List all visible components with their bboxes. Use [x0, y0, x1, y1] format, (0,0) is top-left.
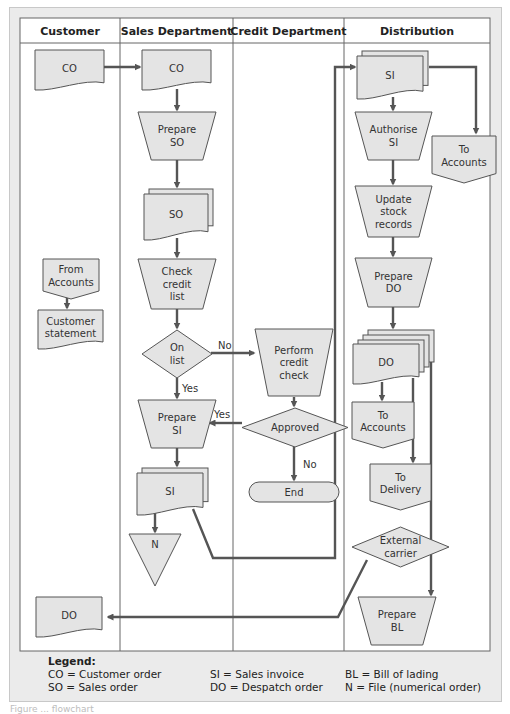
node-label: Prepare — [158, 412, 196, 423]
node-label: credit — [280, 357, 309, 368]
edge-label-yes: Yes — [181, 383, 198, 394]
node-label: records — [375, 219, 412, 230]
node-label: Authorise — [370, 124, 418, 135]
legend-entry: SI = Sales invoice — [210, 668, 345, 681]
node-label: Update — [375, 194, 411, 205]
perform-credit-node: Performcreditcheck — [255, 329, 333, 396]
node-label: External — [380, 535, 422, 546]
node-label: On — [170, 342, 184, 353]
legend-entry: N = File (numerical order) — [345, 681, 481, 694]
node-label: Customer — [46, 316, 95, 327]
prep-so-node: PrepareSO — [138, 112, 216, 160]
check-credit-node: Checkcreditlist — [138, 259, 216, 309]
node-label: list — [170, 355, 185, 366]
node-label: DO — [61, 610, 77, 621]
node-label: check — [279, 370, 308, 381]
node-label: From — [59, 264, 84, 275]
node-label: CO — [62, 63, 77, 74]
node-label: Perform — [274, 345, 313, 356]
lane-header-distribution: Distribution — [380, 25, 454, 38]
edge-label-no: No — [303, 459, 317, 470]
node-label: Accounts — [360, 422, 406, 433]
node-label: stock — [380, 206, 407, 217]
node-label: SI — [385, 70, 394, 81]
prep-si-node: PrepareSI — [138, 400, 216, 448]
node-label: SI — [165, 486, 174, 497]
node-label: DO — [386, 283, 402, 294]
lane-header-sales: Sales Department — [121, 25, 233, 38]
node-label: carrier — [384, 548, 418, 559]
node-label: N — [151, 539, 158, 550]
lane-header-credit: Credit Department — [230, 25, 346, 38]
legend-entry: DO = Despatch order — [210, 681, 345, 694]
to-accounts-2-node: ToAccounts — [352, 402, 414, 448]
node-label: list — [170, 291, 185, 302]
node-label: Accounts — [441, 157, 487, 168]
node-label: Accounts — [48, 277, 94, 288]
node-label: SI — [389, 137, 398, 148]
node-label: BL — [391, 622, 404, 633]
legend-row: SO = Sales order DO = Despatch order N =… — [48, 681, 481, 694]
legend: Legend: CO = Customer order SI = Sales i… — [48, 655, 481, 694]
node-label: Approved — [271, 422, 319, 433]
node-label: SO — [169, 209, 183, 220]
node-label: credit — [163, 279, 192, 290]
legend-title: Legend: — [48, 655, 481, 668]
legend-entry: CO = Customer order — [48, 668, 210, 681]
edge-label-no: No — [218, 340, 232, 351]
node-label: To — [458, 144, 470, 155]
from-accounts-node: FromAccounts — [43, 259, 99, 299]
update-stock-node: Updatestockrecords — [355, 186, 432, 237]
end-node: End — [249, 482, 339, 502]
prep-do-node: PrepareDO — [355, 258, 432, 307]
node-label: Prepare — [158, 124, 196, 135]
lane-header-customer: Customer — [40, 25, 100, 38]
authorise-si-node: AuthoriseSI — [355, 112, 432, 160]
node-label: Prepare — [378, 609, 416, 620]
legend-entry: BL = Bill of lading — [345, 668, 439, 681]
node-label: Prepare — [374, 271, 412, 282]
node-label: To — [377, 410, 389, 421]
figure-caption: Figure ... flowchart — [10, 704, 94, 714]
node-label: SO — [170, 137, 184, 148]
to-delivery-node: ToDelivery — [370, 464, 431, 510]
node-label: End — [284, 487, 303, 498]
prep-bl-node: PrepareBL — [358, 597, 436, 645]
node-label: CO — [169, 63, 184, 74]
node-label: To — [394, 472, 406, 483]
edge-label-yes: Yes — [213, 409, 230, 420]
node-label: Delivery — [380, 484, 422, 495]
node-label: statement — [45, 328, 97, 339]
to-accounts-1-node: ToAccounts — [432, 136, 496, 183]
legend-entry: SO = Sales order — [48, 681, 210, 694]
node-label: DO — [378, 357, 394, 368]
node-label: Check — [162, 266, 193, 277]
legend-row: CO = Customer order SI = Sales invoice B… — [48, 668, 481, 681]
node-label: SI — [172, 425, 181, 436]
